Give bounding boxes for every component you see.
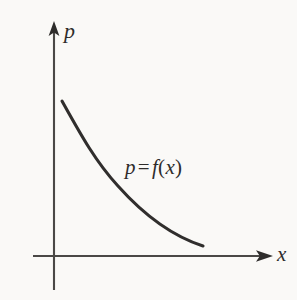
equation-lhs: p (125, 155, 136, 179)
equation-close-paren: ) (175, 155, 182, 179)
equation-argument: x (165, 155, 175, 179)
y-axis-label: p (64, 20, 75, 42)
equation-operator: = (136, 155, 152, 179)
curve-equation-label: p=f(x) (125, 157, 182, 178)
x-axis-label: x (277, 244, 286, 265)
figure-canvas: p x p=f(x) (0, 0, 297, 300)
plot-svg (0, 0, 297, 300)
